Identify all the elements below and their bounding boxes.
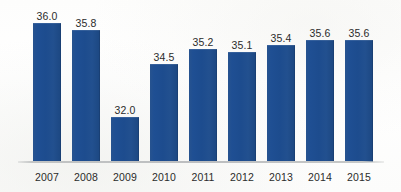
- bar-2008: [72, 30, 100, 162]
- bar-value-2011: 35.2: [182, 36, 224, 48]
- bar-2009: [111, 117, 139, 162]
- bar-group-2007: 36.0: [33, 23, 61, 162]
- bar-2007: [33, 23, 61, 162]
- bar-2013: [267, 45, 295, 162]
- bar-group-2014: 35.6: [306, 40, 334, 162]
- x-tick-2014: 2014: [299, 171, 341, 183]
- bar-2015: [345, 40, 373, 162]
- x-tick-2012: 2012: [221, 171, 263, 183]
- bar-value-2009: 32.0: [104, 104, 146, 116]
- bar-value-2008: 35.8: [65, 17, 107, 29]
- bar-value-2014: 35.6: [299, 27, 341, 39]
- bar-value-2010: 34.5: [143, 51, 185, 63]
- bar-2014: [306, 40, 334, 162]
- plot-area: 36.0 35.8 32.0 34.5 35.2 35.1: [0, 0, 401, 192]
- x-axis-line: [18, 161, 384, 163]
- bar-2011: [189, 49, 217, 162]
- bar-group-2011: 35.2: [189, 49, 217, 162]
- x-tick-2009: 2009: [104, 171, 146, 183]
- bar-2012: [228, 52, 256, 162]
- x-tick-2010: 2010: [143, 171, 185, 183]
- x-tick-2008: 2008: [65, 171, 107, 183]
- bar-group-2015: 35.6: [345, 40, 373, 162]
- bar-chart: 36.0 35.8 32.0 34.5 35.2 35.1: [0, 0, 401, 192]
- bar-group-2009: 32.0: [111, 117, 139, 162]
- bar-group-2008: 35.8: [72, 30, 100, 162]
- bar-group-2013: 35.4: [267, 45, 295, 162]
- bar-2010: [150, 64, 178, 162]
- x-tick-2011: 2011: [182, 171, 224, 183]
- bar-value-2012: 35.1: [221, 39, 263, 51]
- x-tick-2013: 2013: [260, 171, 302, 183]
- bar-group-2010: 34.5: [150, 64, 178, 162]
- bar-value-2015: 35.6: [338, 27, 380, 39]
- bar-group-2012: 35.1: [228, 52, 256, 162]
- bar-value-2013: 35.4: [260, 32, 302, 44]
- x-tick-2007: 2007: [26, 171, 68, 183]
- bar-value-2007: 36.0: [26, 10, 68, 22]
- x-tick-2015: 2015: [338, 171, 380, 183]
